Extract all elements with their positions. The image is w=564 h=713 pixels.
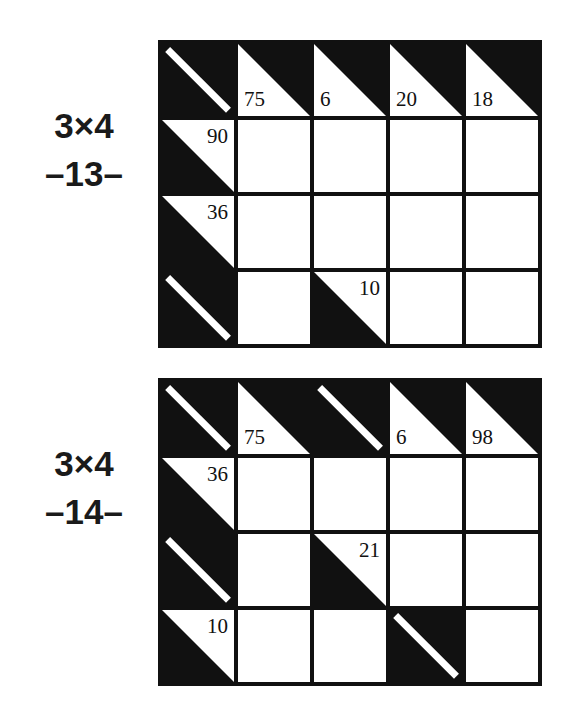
clue-cell-r0-c1: 75 — [238, 382, 310, 454]
clue-cell-r0-c4: 18 — [466, 44, 538, 116]
clue-value: 36 — [207, 464, 228, 485]
clue-cell-r3-c2: 10 — [314, 272, 386, 344]
puzzle-grid-1[interactable]: 7562018903610 — [158, 40, 542, 348]
puzzle-label-1: 3×4 –13– — [14, 102, 154, 199]
clue-cell-r0-c3: 6 — [390, 382, 462, 454]
blocked-cell-r0-c2 — [314, 382, 386, 454]
answer-cell-r2-c4[interactable] — [466, 196, 538, 268]
answer-cell-r2-c2[interactable] — [314, 196, 386, 268]
puzzle-number-label-2: –14– — [14, 488, 154, 536]
answer-cell-r1-c3[interactable] — [390, 120, 462, 192]
clue-value: 90 — [207, 126, 228, 147]
puzzle-size-label-1: 3×4 — [14, 102, 154, 150]
answer-cell-r2-c1[interactable] — [238, 534, 310, 606]
blocked-cell-r2-c0 — [162, 534, 234, 606]
clue-value: 10 — [359, 278, 380, 299]
diagonal-slash-icon — [393, 613, 459, 679]
clue-value: 6 — [320, 89, 331, 110]
clue-value: 36 — [207, 202, 228, 223]
answer-cell-r1-c4[interactable] — [466, 458, 538, 530]
answer-cell-r3-c4[interactable] — [466, 272, 538, 344]
answer-cell-r2-c4[interactable] — [466, 534, 538, 606]
diagonal-slash-icon — [165, 47, 231, 113]
answer-cell-r2-c3[interactable] — [390, 534, 462, 606]
blocked-cell-r0-c0 — [162, 382, 234, 454]
answer-cell-r1-c4[interactable] — [466, 120, 538, 192]
clue-value: 6 — [396, 427, 407, 448]
clue-cell-r0-c2: 6 — [314, 44, 386, 116]
puzzle-grid-2[interactable]: 75698362110 — [158, 378, 542, 686]
clue-value: 75 — [244, 427, 265, 448]
diagonal-slash-icon — [165, 275, 231, 341]
answer-cell-r3-c3[interactable] — [390, 272, 462, 344]
blocked-cell-r0-c0 — [162, 44, 234, 116]
puzzle-number-label-1: –13– — [14, 150, 154, 198]
blocked-cell-r3-c0 — [162, 272, 234, 344]
clue-value: 18 — [472, 89, 493, 110]
answer-cell-r3-c4[interactable] — [466, 610, 538, 682]
clue-cell-r2-c2: 21 — [314, 534, 386, 606]
puzzle-label-2: 3×4 –14– — [14, 440, 154, 537]
clue-cell-r1-c0: 36 — [162, 458, 234, 530]
answer-cell-r1-c2[interactable] — [314, 458, 386, 530]
clue-value: 10 — [207, 616, 228, 637]
answer-cell-r1-c3[interactable] — [390, 458, 462, 530]
answer-cell-r1-c1[interactable] — [238, 120, 310, 192]
puzzle-size-label-2: 3×4 — [14, 440, 154, 488]
answer-cell-r3-c1[interactable] — [238, 272, 310, 344]
clue-cell-r3-c0: 10 — [162, 610, 234, 682]
clue-value: 98 — [472, 427, 493, 448]
answer-cell-r3-c2[interactable] — [314, 610, 386, 682]
clue-cell-r1-c0: 90 — [162, 120, 234, 192]
clue-value: 20 — [396, 89, 417, 110]
clue-cell-r0-c1: 75 — [238, 44, 310, 116]
clue-cell-r2-c0: 36 — [162, 196, 234, 268]
answer-cell-r2-c1[interactable] — [238, 196, 310, 268]
clue-cell-r0-c4: 98 — [466, 382, 538, 454]
clue-cell-r0-c3: 20 — [390, 44, 462, 116]
diagonal-slash-icon — [165, 537, 231, 603]
clue-value: 21 — [359, 540, 380, 561]
answer-cell-r2-c3[interactable] — [390, 196, 462, 268]
clue-value: 75 — [244, 89, 265, 110]
answer-cell-r1-c2[interactable] — [314, 120, 386, 192]
answer-cell-r1-c1[interactable] — [238, 458, 310, 530]
answer-cell-r3-c1[interactable] — [238, 610, 310, 682]
diagonal-slash-icon — [317, 385, 383, 451]
blocked-cell-r3-c3 — [390, 610, 462, 682]
puzzle-page: 3×4 –13– 7562018903610 3×4 –14– 75698362… — [0, 0, 564, 713]
diagonal-slash-icon — [165, 385, 231, 451]
